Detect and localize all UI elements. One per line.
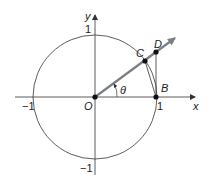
label-angle-theta: θ — [120, 84, 126, 96]
label-point-o: O — [84, 100, 93, 112]
tick-y-pos: 1 — [85, 23, 91, 35]
tick-y-neg: −1 — [80, 162, 93, 174]
unit-circle-diagram: y x 1 −1 −1 1 O B C D θ — [0, 0, 211, 179]
angle-arc-icon — [114, 84, 117, 97]
point-b — [153, 94, 158, 99]
point-c — [142, 58, 147, 63]
label-point-c: C — [136, 47, 144, 59]
point-o — [92, 94, 97, 99]
label-point-d: D — [154, 38, 162, 50]
label-x-axis: x — [192, 100, 199, 112]
label-y-axis: y — [84, 10, 92, 22]
tick-x-neg: −1 — [22, 100, 35, 112]
point-d — [153, 49, 158, 54]
diagram-canvas: y x 1 −1 −1 1 O B C D θ — [0, 0, 211, 179]
label-point-b: B — [161, 82, 168, 94]
tick-x-pos: 1 — [157, 100, 163, 112]
